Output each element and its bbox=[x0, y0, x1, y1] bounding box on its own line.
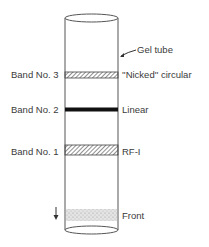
band-3-label: Band No. 3 bbox=[11, 69, 59, 80]
gel-tube-label: Gel tube bbox=[137, 44, 173, 55]
gel-tube bbox=[65, 14, 118, 234]
band-1 bbox=[65, 145, 118, 155]
band-2-form: Linear bbox=[122, 104, 148, 115]
band-3-form: ''Nicked'' circular bbox=[122, 69, 192, 80]
band-1-form: RF-I bbox=[122, 146, 140, 157]
front-label: Front bbox=[122, 210, 144, 221]
band-1-label: Band No. 1 bbox=[11, 146, 59, 157]
down-arrow-icon bbox=[54, 207, 59, 220]
band-2 bbox=[65, 108, 118, 112]
band-2-label: Band No. 2 bbox=[11, 104, 59, 115]
front-zone bbox=[66, 209, 117, 221]
band-3 bbox=[65, 72, 118, 78]
gel-tube-diagram bbox=[0, 0, 209, 247]
